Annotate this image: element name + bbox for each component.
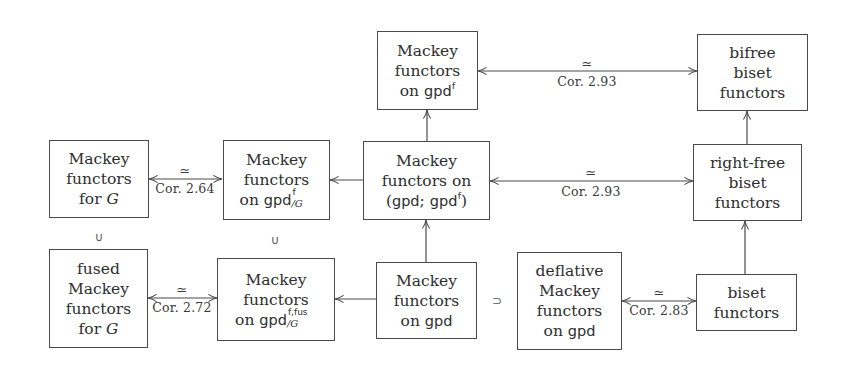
math-symbol: G bbox=[106, 320, 118, 338]
node-text: for bbox=[79, 320, 101, 338]
node-line: Mackey bbox=[396, 271, 457, 291]
math-subsup: f/G bbox=[291, 191, 313, 205]
node-line: on gpdf,fus/G bbox=[235, 310, 317, 330]
node-line: bifree bbox=[729, 43, 775, 63]
math-subsup: f,fus/G bbox=[287, 311, 317, 325]
node-text: on bbox=[401, 312, 420, 330]
node-bifree-biset-functors: bifree biset functors bbox=[697, 34, 808, 111]
node-line: on gpdf bbox=[400, 81, 456, 101]
math-symbol: gpd bbox=[568, 323, 596, 339]
superset-symbol: ⊃ bbox=[492, 294, 502, 308]
math-subscript: /G bbox=[287, 314, 298, 334]
commutative-diagram: Mackey functors on gpdf bifree biset fun… bbox=[0, 0, 846, 368]
edge-label: Cor. 2.93 bbox=[561, 185, 620, 199]
node-mackey-on-gpd-f-fus-over-G: Mackey functors on gpdf,fus/G bbox=[217, 258, 335, 341]
math-symbol: gpd bbox=[259, 312, 287, 328]
node-text: on bbox=[544, 322, 563, 340]
node-fused-mackey-for-G: fused Mackey functors for G bbox=[49, 249, 148, 348]
node-right-free-biset-functors: right-free biset functors bbox=[693, 144, 802, 221]
node-line: functors bbox=[66, 169, 131, 189]
node-line: functors bbox=[720, 83, 785, 103]
edge-iso-symbol: ≃ bbox=[654, 286, 665, 299]
math-symbol: gpd bbox=[425, 313, 453, 329]
node-text: for bbox=[79, 190, 101, 208]
math-superscript: f bbox=[452, 81, 455, 91]
node-line: functors bbox=[244, 170, 309, 190]
node-line: right-free bbox=[710, 153, 785, 173]
math-subscript: /G bbox=[291, 194, 302, 214]
node-biset-functors: biset functors bbox=[696, 274, 797, 331]
node-line: biset bbox=[727, 283, 765, 303]
node-line: functors on bbox=[382, 171, 472, 191]
node-line: Mackey bbox=[68, 279, 129, 299]
node-text: ) bbox=[461, 192, 467, 210]
math-symbol: gpd bbox=[424, 83, 452, 99]
node-text: on bbox=[400, 82, 419, 100]
math-symbol: gpd bbox=[264, 192, 292, 208]
node-mackey-on-gpd-f: Mackey functors on gpdf bbox=[377, 31, 478, 110]
node-line: functors bbox=[715, 193, 780, 213]
node-line: on gpd bbox=[401, 311, 453, 331]
node-line: for G bbox=[79, 319, 119, 339]
node-mackey-for-G: Mackey functors for G bbox=[49, 140, 149, 218]
node-text: on bbox=[235, 311, 254, 329]
node-line: (gpd; gpdf) bbox=[386, 191, 467, 211]
edge-iso-symbol: ≃ bbox=[582, 57, 593, 70]
math-symbol: gpd bbox=[430, 193, 458, 209]
node-line: Mackey bbox=[246, 150, 307, 170]
node-line: biset bbox=[728, 173, 766, 193]
node-line: deflative bbox=[536, 261, 604, 281]
math-separator: ; bbox=[420, 192, 430, 210]
node-line: Mackey bbox=[539, 281, 600, 301]
node-line: Mackey bbox=[245, 270, 306, 290]
edge-label: Cor. 2.72 bbox=[152, 301, 211, 315]
node-line: biset bbox=[733, 63, 771, 83]
node-line: functors bbox=[66, 299, 131, 319]
node-mackey-on-gpd-gpd-f: Mackey functors on (gpd; gpdf) bbox=[363, 141, 490, 220]
node-line: functors bbox=[394, 291, 459, 311]
subset-symbol: ∪ bbox=[271, 233, 280, 247]
edge-label: Cor. 2.64 bbox=[155, 182, 214, 196]
node-mackey-on-gpd-f-over-G: Mackey functors on gpdf/G bbox=[223, 140, 330, 220]
node-line: Mackey bbox=[396, 151, 457, 171]
edge-label: Cor. 2.83 bbox=[629, 304, 688, 318]
node-deflative-mackey-on-gpd: deflative Mackey functors on gpd bbox=[517, 252, 622, 350]
node-line: on gpd bbox=[544, 321, 596, 341]
node-line: functors bbox=[395, 61, 460, 81]
math-symbol: gpd bbox=[392, 193, 420, 209]
node-line: Mackey bbox=[397, 41, 458, 61]
node-text: on bbox=[240, 191, 259, 209]
edge-iso-symbol: ≃ bbox=[586, 166, 597, 179]
node-line: functors bbox=[537, 301, 602, 321]
node-line: on gpdf/G bbox=[240, 190, 314, 210]
node-line: Mackey bbox=[68, 149, 129, 169]
node-line: functors bbox=[714, 303, 779, 323]
node-mackey-on-gpd: Mackey functors on gpd bbox=[376, 262, 477, 339]
edge-iso-symbol: ≃ bbox=[177, 283, 188, 296]
subset-symbol: ∪ bbox=[95, 230, 104, 244]
math-symbol: G bbox=[107, 190, 119, 208]
node-line: for G bbox=[79, 189, 119, 209]
edge-label: Cor. 2.93 bbox=[557, 75, 616, 89]
node-line: fused bbox=[77, 259, 120, 279]
edge-iso-symbol: ≃ bbox=[180, 164, 191, 177]
